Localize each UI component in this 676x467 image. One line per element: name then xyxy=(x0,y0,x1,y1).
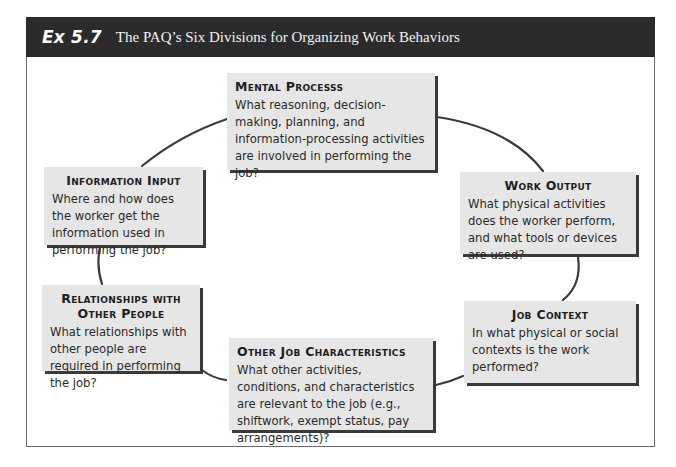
division-description: What relationships with other people are… xyxy=(50,324,192,392)
arc-job-context-to-other-job xyxy=(436,376,463,385)
division-title: Mental Processs xyxy=(235,79,427,94)
division-job-context: Job Context In what physical or social c… xyxy=(464,301,636,383)
division-title: Job Context xyxy=(472,307,628,322)
division-title: Information Input xyxy=(52,173,195,188)
division-work-output: Work Output What physical activities doe… xyxy=(460,172,636,254)
division-mental-processes: Mental Processs What reasoning, decision… xyxy=(227,73,435,170)
division-description: What reasoning, decision-making, plannin… xyxy=(235,97,427,182)
division-information-input: Information Input Where and how does the… xyxy=(44,167,203,245)
division-other-job-characteristics: Other Job Characteristics What other act… xyxy=(229,338,433,430)
division-description: What other activities, conditions, and c… xyxy=(237,362,425,447)
division-title: Work Output xyxy=(468,178,628,193)
division-description: What physical activities does the worker… xyxy=(468,196,628,264)
division-title: Other Job Characteristics xyxy=(237,344,425,359)
division-description: Where and how does the worker get the in… xyxy=(52,191,195,259)
division-relationships-with-other-people: Relationships with Other People What rel… xyxy=(42,285,200,371)
division-title: Relationships with Other People xyxy=(50,291,192,321)
arc-other-job-to-relationships xyxy=(202,370,226,380)
arc-info-input-to-mental xyxy=(142,119,227,166)
arc-mental-to-work-output xyxy=(437,117,543,171)
division-description: In what physical or social contexts is t… xyxy=(472,325,628,376)
